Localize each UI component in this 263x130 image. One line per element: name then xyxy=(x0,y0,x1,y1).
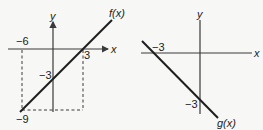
x-label-f: x xyxy=(110,43,117,55)
graphs: y x f(x) −6 3 −3 −9 y x g(x) −3 −3 xyxy=(0,0,263,130)
graph-f: y x f(x) −6 3 −3 −9 xyxy=(8,7,125,125)
function-label-g: g(x) xyxy=(217,117,236,129)
function-label-f: f(x) xyxy=(109,7,125,19)
y-label-f: y xyxy=(49,10,57,22)
x-intercept-label-g: −3 xyxy=(152,41,165,53)
tick-label-3: 3 xyxy=(84,49,90,61)
y-label-g: y xyxy=(196,8,204,20)
line-f xyxy=(20,20,112,112)
y-intercept-label-g: −3 xyxy=(185,98,198,110)
graph-g: y x g(x) −3 −3 xyxy=(141,8,260,129)
tick-label-neg9: −9 xyxy=(16,113,29,125)
tick-label-neg3: −3 xyxy=(39,69,52,81)
tick-label-neg6: −6 xyxy=(16,35,29,47)
x-label-g: x xyxy=(253,47,260,59)
